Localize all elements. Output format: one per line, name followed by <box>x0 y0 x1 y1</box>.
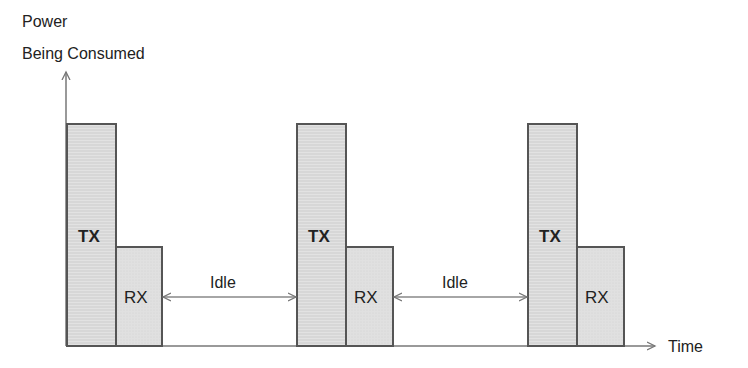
y-axis-label-line1: Power <box>22 13 68 30</box>
rx-label-3: RX <box>585 288 609 307</box>
y-axis-label-line2: Being Consumed <box>22 45 145 62</box>
idle-label-1: Idle <box>210 274 236 291</box>
idle-label-2: Idle <box>442 274 468 291</box>
tx-label-1: TX <box>78 227 100 246</box>
rx-label-2: RX <box>354 288 378 307</box>
tx-label-2: TX <box>308 227 330 246</box>
power-timing-diagram: Power Being Consumed Time TX RX TX RX TX… <box>0 0 748 368</box>
tx-label-3: TX <box>539 227 561 246</box>
rx-label-1: RX <box>124 288 148 307</box>
x-axis-label: Time <box>668 338 703 355</box>
